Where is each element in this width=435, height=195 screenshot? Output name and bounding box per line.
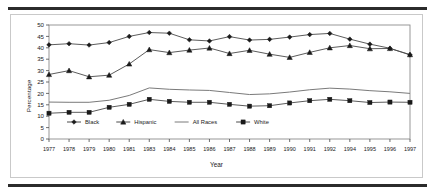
x-tick-label: 1980 — [103, 146, 115, 152]
data-point-square — [368, 100, 372, 104]
data-point-square — [328, 97, 332, 101]
data-point-diamond — [307, 32, 312, 37]
line-chart: 0510152025303540455019771978197919801981… — [11, 15, 422, 177]
series-line-all-races — [49, 88, 410, 102]
y-tick-label: 30 — [37, 67, 44, 74]
x-tick-label: 1994 — [344, 146, 356, 152]
data-point-triangle — [127, 61, 132, 66]
x-tick-label: 1983 — [143, 146, 155, 152]
top-rule — [8, 7, 427, 10]
data-point-square — [147, 97, 151, 101]
y-tick-label: 0 — [41, 135, 45, 142]
data-point-diamond — [327, 31, 332, 36]
data-point-square — [348, 99, 352, 103]
x-tick-label: 1992 — [324, 146, 336, 152]
data-point-triangle — [147, 47, 152, 52]
y-tick-label: 25 — [37, 78, 44, 85]
x-tick-label: 1995 — [364, 146, 376, 152]
chart-container: 0510152025303540455019771978197919801981… — [10, 14, 423, 178]
data-point-diamond — [207, 39, 212, 44]
plot-area: 0510152025303540455019771978197919801981… — [11, 15, 422, 177]
y-tick-label: 45 — [37, 33, 44, 40]
data-point-square — [67, 110, 71, 114]
x-tick-label: 1986 — [203, 146, 215, 152]
data-point-diamond — [47, 43, 52, 48]
data-point-square — [268, 104, 272, 108]
y-tick-label: 50 — [37, 21, 44, 28]
data-point-diamond — [287, 35, 292, 40]
plot-frame — [49, 25, 410, 139]
data-point-square — [247, 104, 251, 108]
y-tick-label: 10 — [37, 112, 44, 119]
legend-label-black: Black — [85, 119, 99, 125]
x-tick-label: 1990 — [284, 146, 296, 152]
data-point-square — [187, 100, 191, 104]
data-point-square — [127, 102, 131, 106]
y-tick-label: 40 — [37, 44, 44, 51]
data-point-diamond — [167, 31, 172, 36]
data-point-diamond — [127, 34, 132, 39]
data-point-diamond — [67, 41, 72, 46]
legend-label-all-races: All Races — [193, 119, 218, 125]
x-tick-label: 1979 — [83, 146, 95, 152]
data-point-square — [288, 101, 292, 105]
x-tick-label: 1989 — [263, 146, 275, 152]
data-point-square — [227, 102, 231, 106]
bottom-rule — [8, 184, 427, 187]
data-point-triangle — [247, 48, 252, 53]
x-tick-label: 1981 — [123, 146, 135, 152]
figure-page: 0510152025303540455019771978197919801981… — [0, 0, 435, 195]
data-point-square — [207, 100, 211, 104]
data-point-diamond — [87, 43, 92, 48]
data-point-square — [308, 99, 312, 103]
x-tick-label: 1997 — [404, 146, 416, 152]
data-point-diamond — [147, 30, 152, 35]
x-tick-label: 1977 — [43, 146, 55, 152]
data-point-square — [167, 99, 171, 103]
legend-label-hispanic: Hispanic — [134, 119, 156, 125]
legend-label-white: White — [254, 119, 269, 125]
y-tick-label: 20 — [37, 90, 44, 97]
y-tick-label: 5 — [41, 124, 45, 131]
data-point-diamond — [72, 120, 77, 125]
data-point-diamond — [348, 37, 353, 42]
data-point-square — [87, 110, 91, 114]
x-tick-label: 1984 — [163, 146, 175, 152]
data-point-diamond — [267, 37, 272, 42]
data-point-triangle — [66, 68, 71, 73]
data-point-square — [107, 105, 111, 109]
x-tick-label: 1996 — [384, 146, 396, 152]
data-point-square — [388, 100, 392, 104]
data-point-square — [47, 111, 51, 115]
x-axis-title: Year — [11, 161, 422, 168]
x-tick-label: 1978 — [63, 146, 75, 152]
data-point-diamond — [107, 40, 112, 45]
x-tick-label: 1987 — [223, 146, 235, 152]
y-tick-label: 35 — [37, 55, 44, 62]
data-point-diamond — [187, 38, 192, 43]
y-tick-label: 15 — [37, 101, 44, 108]
x-tick-label: 1985 — [183, 146, 195, 152]
x-tick-label: 1991 — [304, 146, 316, 152]
x-tick-label: 1988 — [243, 146, 255, 152]
data-point-diamond — [247, 38, 252, 43]
data-point-square — [408, 100, 412, 104]
data-point-diamond — [227, 34, 232, 39]
series-line-hispanic — [49, 46, 410, 77]
data-point-square — [241, 120, 245, 124]
